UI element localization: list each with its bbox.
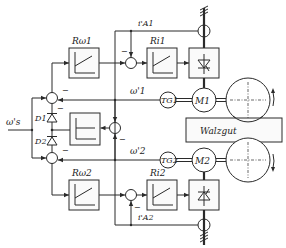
current-controller-1: Ri1 (147, 36, 177, 78)
tacho-tg2: TG2 (160, 152, 178, 168)
motor-m1: M1 (192, 88, 216, 112)
motor-m2: M2 (192, 148, 216, 172)
speed-controller-1: Rω1 (69, 36, 99, 78)
current-sensor-1 (198, 25, 210, 37)
supply-arrows-1 (200, 6, 208, 16)
svg-text:Rω2: Rω2 (71, 168, 92, 178)
supply-arrows-2 (200, 232, 208, 242)
limiter-block (70, 113, 100, 145)
speed-feedback-1: ω'1 (58, 86, 160, 100)
current-controller-2: Ri2 (147, 168, 177, 210)
roll-2 (226, 138, 275, 182)
sum-difference: − (110, 123, 126, 145)
svg-text:D1: D1 (34, 114, 47, 123)
svg-text:−: − (62, 86, 69, 95)
sum-current-1: − (121, 47, 137, 69)
input-setpoint: ω's (6, 117, 33, 131)
thyristor-converter-1 (189, 48, 219, 78)
svg-text:ω'1: ω'1 (130, 86, 146, 96)
current-sensor-2 (198, 219, 210, 231)
svg-text:ω'2: ω'2 (130, 146, 146, 156)
svg-text:TG2: TG2 (161, 156, 178, 165)
svg-text:M2: M2 (194, 156, 210, 166)
thyristor-converter-2 (189, 180, 219, 210)
setpoint-label: ω's (6, 117, 21, 127)
diode-d2: D2 (34, 137, 57, 147)
workpiece-walzgut: Walzgut (186, 118, 282, 142)
svg-text:Rω1: Rω1 (71, 36, 92, 46)
speed-controller-2: Rω2 (69, 168, 99, 210)
sum-speed-2: − (47, 146, 69, 164)
current-feedback-2-label: i'A2 (138, 213, 154, 222)
svg-text:−: − (57, 104, 64, 113)
svg-text:−: − (62, 146, 69, 155)
svg-text:TG1: TG1 (161, 96, 178, 105)
svg-text:Ri1: Ri1 (149, 36, 165, 46)
svg-text:Ri2: Ri2 (149, 168, 166, 178)
roll-1 (226, 78, 275, 122)
sum-speed-1: − (47, 86, 69, 104)
svg-text:Walzgut: Walzgut (200, 126, 237, 136)
speed-feedback-2: ω'2 (58, 146, 160, 160)
tacho-tg1: TG1 (160, 92, 178, 108)
svg-text:−: − (134, 203, 141, 212)
sum-current-2: − (126, 190, 141, 213)
svg-text:−: − (121, 47, 128, 56)
svg-text:D2: D2 (34, 137, 47, 146)
svg-text:−: − (119, 135, 126, 144)
control-diagram: ω's − − D1 − D2 − ω'1 (0, 0, 286, 248)
svg-text:M1: M1 (194, 96, 210, 106)
current-feedback-1-label: i'A1 (138, 19, 154, 28)
